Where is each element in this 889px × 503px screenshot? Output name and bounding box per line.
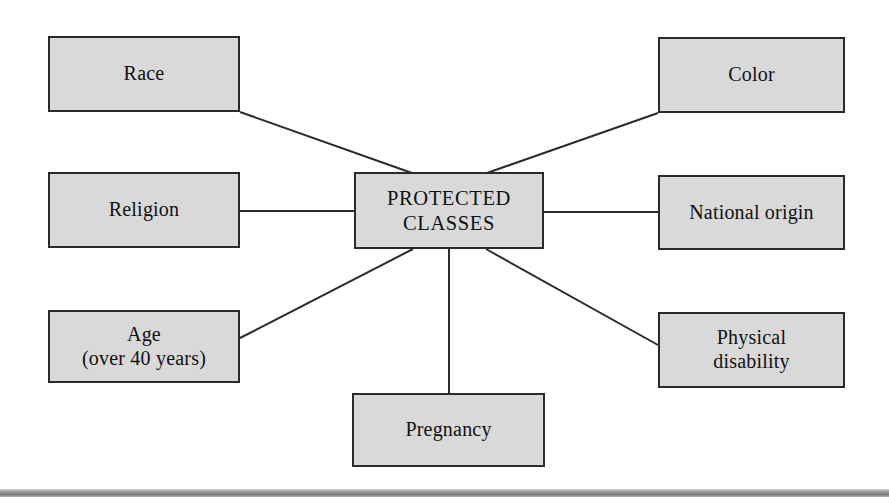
node-pregnancy-label: Pregnancy <box>401 418 495 442</box>
node-race-label: Race <box>120 62 169 86</box>
node-pregnancy[interactable]: Pregnancy <box>352 393 545 467</box>
edge-race <box>240 112 412 173</box>
node-protected-classes[interactable]: PROTECTED CLASSES <box>354 172 544 249</box>
node-race[interactable]: Race <box>48 36 240 112</box>
node-physical-disability-label: Physical disability <box>709 326 793 373</box>
node-religion-label: Religion <box>105 198 184 222</box>
node-color[interactable]: Color <box>658 37 845 113</box>
node-age-label: Age (over 40 years) <box>78 323 210 370</box>
edge-color <box>487 113 658 173</box>
node-religion[interactable]: Religion <box>48 172 240 248</box>
edge-age <box>240 249 413 338</box>
node-physical-disability[interactable]: Physical disability <box>658 312 845 388</box>
node-national-origin[interactable]: National origin <box>658 175 845 250</box>
node-color-label: Color <box>724 63 779 87</box>
edge-physical-disability <box>486 249 658 345</box>
node-age[interactable]: Age (over 40 years) <box>48 310 240 383</box>
diagram-canvas: Race Color Religion National origin Age … <box>0 0 889 503</box>
footer-divider <box>0 489 889 497</box>
node-protected-classes-label: PROTECTED CLASSES <box>383 186 515 234</box>
node-national-origin-label: National origin <box>685 201 818 225</box>
